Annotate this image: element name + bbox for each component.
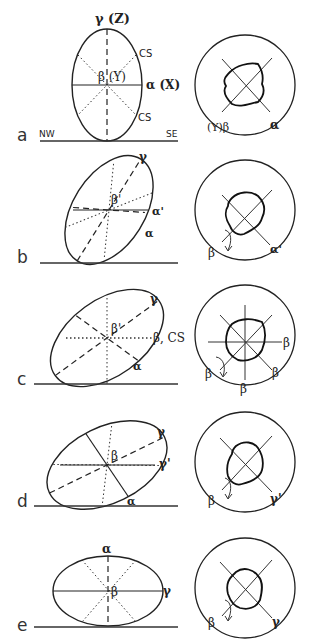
label-cs-upper: CS bbox=[139, 48, 152, 59]
label-beta-circle-e: β bbox=[208, 616, 215, 630]
panel-letter-c: c bbox=[17, 369, 26, 389]
grain-circle-a bbox=[195, 35, 295, 135]
panel-e: α β γ e β γ bbox=[17, 538, 295, 638]
label-beta-d: β bbox=[111, 449, 118, 463]
panel-a: γ (Z) CS β (Y) α (X) CS a NW SE (Y)β α bbox=[17, 11, 295, 145]
label-beta-y: β (Y) bbox=[98, 70, 126, 84]
label-gamma-e: γ bbox=[163, 584, 171, 598]
panel-d: γ β γ' α d β γ' bbox=[17, 402, 295, 529]
label-gamma-z: γ (Z) bbox=[95, 11, 130, 26]
label-beta-prime-b: β' bbox=[111, 193, 121, 207]
label-beta-prime-c: β' bbox=[111, 322, 121, 336]
indicatrix-ellipse-a bbox=[72, 29, 142, 141]
label-beta-circle-d: β bbox=[208, 494, 215, 508]
label-alpha-c: α bbox=[133, 360, 142, 373]
label-gamma-c: γ bbox=[150, 292, 158, 306]
label-beta-circle-c-lower-left: β bbox=[205, 367, 212, 381]
label-gamma-d: γ bbox=[157, 425, 165, 439]
panel-letter-d: d bbox=[17, 491, 28, 511]
optical-orientation-diagram: γ (Z) CS β (Y) α (X) CS a NW SE (Y)β α γ… bbox=[0, 0, 309, 644]
label-nw: NW bbox=[39, 129, 55, 139]
label-gamma-b: γ bbox=[139, 150, 147, 164]
label-alpha-e: α bbox=[102, 542, 111, 556]
panel-letter-a: a bbox=[17, 125, 27, 145]
label-se: SE bbox=[166, 129, 178, 139]
label-gamma-prime-circle-d: γ' bbox=[270, 492, 282, 506]
panel-letter-b: b bbox=[17, 247, 28, 267]
panel-letter-e: e bbox=[17, 615, 27, 635]
label-beta-circle-b: β bbox=[208, 246, 215, 260]
label-gamma-circle-e: γ bbox=[272, 615, 280, 629]
indicatrix-ellipse-e bbox=[53, 556, 163, 626]
label-alpha-circle-a: α bbox=[270, 118, 279, 132]
label-alpha-b: α bbox=[145, 227, 154, 240]
label-cs-lower: CS bbox=[138, 112, 151, 123]
label-beta-e: β bbox=[111, 585, 118, 599]
label-y-beta: (Y)β bbox=[207, 121, 229, 134]
label-beta-circle-c-lower-right: β bbox=[272, 366, 279, 380]
panel-b: γ β' α' α b β α' bbox=[17, 140, 295, 280]
label-alpha-x: α (X) bbox=[146, 78, 180, 92]
panel-c: γ β' β, CS α c β β β β bbox=[17, 270, 295, 407]
label-gamma-prime-d: γ' bbox=[159, 457, 171, 471]
label-alpha-prime-circle-b: α' bbox=[270, 243, 282, 256]
label-beta-circle-c-right: β bbox=[283, 336, 290, 350]
label-alpha-prime-b: α' bbox=[152, 205, 164, 218]
label-beta-cs: β, CS bbox=[153, 331, 185, 345]
label-beta-circle-c-bottom: β bbox=[240, 382, 247, 396]
